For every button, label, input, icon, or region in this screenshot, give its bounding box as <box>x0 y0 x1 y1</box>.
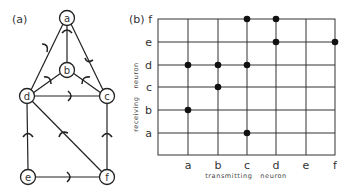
panel-a: (a) <box>12 11 115 185</box>
col-label-e: e <box>303 159 310 172</box>
node-c: c <box>100 89 115 104</box>
edge-d-f <box>32 101 102 172</box>
panel-a-label: (a) <box>12 13 27 26</box>
col-label-b: b <box>215 159 222 172</box>
dot-a-to-b <box>185 107 192 114</box>
graph-edges <box>27 24 107 177</box>
edge-a-c <box>71 24 103 90</box>
col-label-d: d <box>273 159 280 172</box>
node-a-label: a <box>64 13 70 24</box>
dot-d-to-e <box>273 39 280 46</box>
node-d: d <box>20 89 35 104</box>
y-axis-title: receiving neuron <box>132 62 140 132</box>
connection-dots <box>185 16 339 137</box>
row-label-a: a <box>145 127 152 140</box>
row-label-e: e <box>145 36 152 49</box>
panel-b-label: (b) <box>129 13 145 26</box>
dot-f-to-e <box>332 39 339 46</box>
row-label-b: b <box>145 104 152 117</box>
col-label-a: a <box>185 159 192 172</box>
x-axis-title: transmitting neuron <box>205 172 287 180</box>
row-label-d: d <box>145 59 152 72</box>
dot-c-to-d <box>244 62 251 69</box>
dot-a-to-d <box>185 62 192 69</box>
synapse-a-d-icon <box>42 44 47 52</box>
row-label-c: c <box>146 81 152 94</box>
edge-a-d <box>31 24 63 90</box>
dot-b-to-c <box>215 84 222 91</box>
node-d-label: d <box>24 91 30 102</box>
node-e: e <box>21 170 36 185</box>
panel-b: (b) f e d c b a a <box>129 13 338 180</box>
row-label-f: f <box>148 13 153 26</box>
edge-d-e <box>27 103 28 170</box>
dot-d-to-f <box>273 16 280 23</box>
node-c-label: c <box>104 91 110 102</box>
col-label-c: c <box>244 159 250 172</box>
column-labels: a b c d e f <box>185 159 338 172</box>
neural-network-figure: (a) <box>0 0 358 194</box>
dot-c-to-a <box>244 130 251 137</box>
dot-c-to-f <box>244 16 251 23</box>
dot-b-to-d <box>215 62 222 69</box>
node-b-label: b <box>64 65 70 76</box>
row-labels: f e d c b a <box>145 13 153 140</box>
node-b: b <box>60 63 75 78</box>
col-label-f: f <box>333 159 338 172</box>
node-f: f <box>100 170 115 185</box>
node-e-label: e <box>25 172 31 183</box>
node-f-label: f <box>105 172 109 183</box>
node-a: a <box>60 11 75 26</box>
